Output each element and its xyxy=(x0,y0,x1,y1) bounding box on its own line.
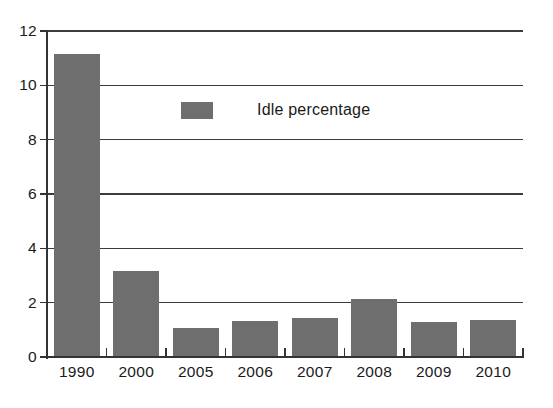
x-tick-mark xyxy=(403,348,405,358)
x-tick-label: 1990 xyxy=(59,363,95,381)
y-tick-mark xyxy=(40,30,47,32)
y-axis-labels: 024681012 xyxy=(0,0,37,408)
bar xyxy=(292,318,338,357)
legend: Idle percentage xyxy=(181,101,370,119)
x-tick-mark xyxy=(463,348,465,358)
bar xyxy=(232,321,278,357)
y-tick-mark xyxy=(40,85,47,87)
bar xyxy=(113,271,159,357)
bar xyxy=(470,320,516,357)
bar-chart: 024681012 199020002005200620072008200920… xyxy=(0,0,553,408)
x-tick-mark xyxy=(225,348,227,358)
bar xyxy=(54,54,100,357)
y-tick-label: 12 xyxy=(19,22,37,40)
y-tick-label: 0 xyxy=(28,348,37,366)
y-tick-mark xyxy=(40,356,47,358)
x-tick-mark xyxy=(284,348,286,358)
x-tick-label: 2007 xyxy=(297,363,333,381)
y-tick-mark xyxy=(40,248,47,250)
x-tick-label: 2008 xyxy=(356,363,392,381)
x-tick-mark xyxy=(165,348,167,358)
y-tick-mark xyxy=(40,302,47,304)
y-tick-label: 6 xyxy=(28,185,37,203)
legend-swatch xyxy=(181,102,213,119)
y-tick-mark xyxy=(40,193,47,195)
x-tick-mark xyxy=(522,348,524,358)
y-tick-mark xyxy=(40,139,47,141)
bar xyxy=(173,328,219,357)
x-tick-mark xyxy=(106,348,108,358)
legend-label: Idle percentage xyxy=(257,101,370,119)
y-tick-label: 10 xyxy=(19,76,37,94)
y-tick-label: 8 xyxy=(28,131,37,149)
y-tick-label: 4 xyxy=(28,239,37,257)
y-tick-label: 2 xyxy=(28,294,37,312)
x-tick-mark xyxy=(344,348,346,358)
x-tick-label: 2006 xyxy=(237,363,273,381)
x-tick-label: 2000 xyxy=(118,363,154,381)
bars-group xyxy=(47,31,523,357)
x-tick-label: 2009 xyxy=(416,363,452,381)
bar xyxy=(351,299,397,357)
x-tick-label: 2005 xyxy=(178,363,214,381)
bar xyxy=(411,322,457,357)
x-tick-label: 2010 xyxy=(475,363,511,381)
